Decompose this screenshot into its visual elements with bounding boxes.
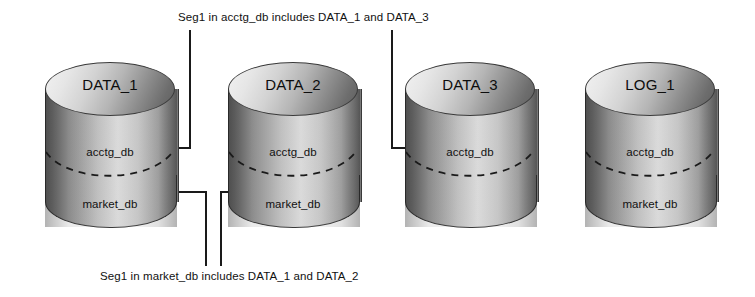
segment-label-market: market_db — [228, 198, 358, 210]
segment-label-acctg: acctg_db — [45, 146, 175, 158]
cylinder-title: LOG_1 — [585, 76, 715, 93]
cylinder-title: DATA_3 — [405, 76, 535, 93]
diagram-canvas: Seg1 in acctg_db includes DATA_1 and DAT… — [0, 0, 755, 297]
segment-label-acctg: acctg_db — [405, 146, 535, 158]
segment-label-market: market_db — [45, 198, 175, 210]
cylinder-log-1[interactable]: LOG_1 acctg_db market_db — [585, 62, 717, 230]
cylinder-data-1[interactable]: DATA_1 acctg_db market_db — [45, 62, 177, 230]
cylinder-data-2[interactable]: DATA_2 acctg_db market_db — [228, 62, 360, 230]
cylinder-title: DATA_2 — [228, 76, 358, 93]
segment-label-market: market_db — [585, 198, 715, 210]
cylinder-bottom-cap — [405, 175, 537, 228]
annotation-top: Seg1 in acctg_db includes DATA_1 and DAT… — [178, 11, 429, 23]
segment-label-acctg: acctg_db — [585, 146, 715, 158]
cylinder-data-3[interactable]: DATA_3 acctg_db — [405, 62, 537, 230]
cylinder-title: DATA_1 — [45, 76, 175, 93]
annotation-bottom: Seg1 in market_db includes DATA_1 and DA… — [100, 270, 359, 282]
segment-label-acctg: acctg_db — [228, 146, 358, 158]
wire-bottom-to-data1 — [176, 192, 206, 266]
